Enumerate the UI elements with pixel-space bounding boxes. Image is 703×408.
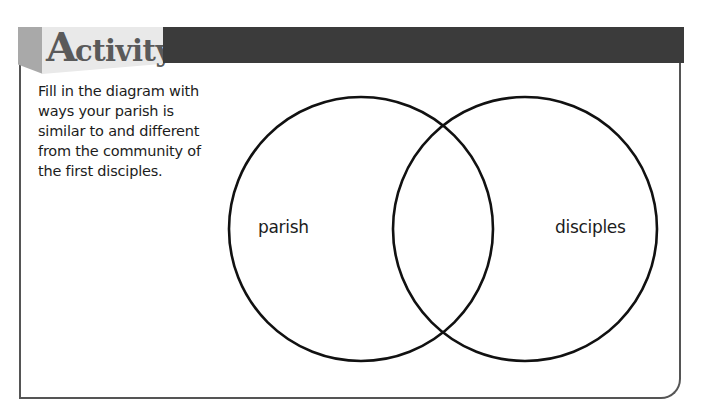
- venn-diagram: [0, 0, 703, 408]
- venn-label-disciples: disciples: [555, 217, 626, 237]
- venn-label-parish: parish: [258, 217, 309, 237]
- activity-page: Activity Fill in the diagram with ways y…: [0, 0, 703, 408]
